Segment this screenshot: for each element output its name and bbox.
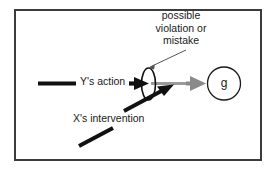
x-intervention-arrow-shaft [124,88,167,111]
label-y-action: Y's action [80,76,125,87]
annotation-line-3: mistake [142,34,220,47]
label-x-intervention: X's intervention [73,113,144,124]
annotation-line-2: violation or [142,22,220,35]
diagram-canvas: possible violation or mistake Y's action… [0,0,276,171]
annotation-leader-line [150,50,186,67]
annotation-text: possible violation or mistake [142,9,220,47]
diagram-graphics [0,0,276,171]
label-goal: g [216,76,232,90]
goal-arrowhead [190,76,206,91]
x-intervention-tail-line [79,128,113,146]
annotation-line-1: possible [142,9,220,22]
